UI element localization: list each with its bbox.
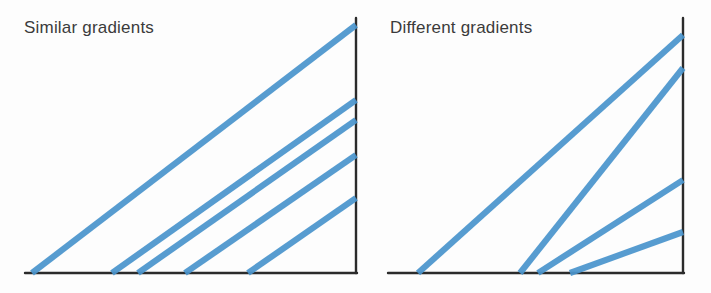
panel-similar-gradients: Similar gradients (0, 0, 360, 293)
figure-container: Similar gradients Different gradients (0, 0, 711, 293)
gradient-line-5 (248, 198, 356, 273)
panel-different-gradients: Different gradients (360, 0, 711, 293)
similar-gradients-plot (0, 0, 360, 293)
different-gradients-plot (360, 0, 711, 293)
gradient-line-3 (138, 120, 356, 273)
